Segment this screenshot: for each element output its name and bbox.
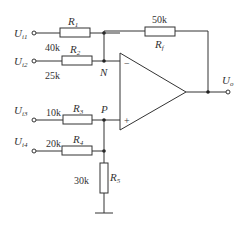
opamp-minus: − — [124, 58, 130, 69]
label-r3: R3 — [72, 102, 84, 116]
label-ui2: Ui2 — [14, 55, 28, 69]
terminal-ui4 — [32, 149, 36, 153]
opamp — [120, 53, 186, 130]
label-node-p: P — [100, 103, 108, 115]
value-r5: 30k — [74, 175, 89, 186]
resistor-r2 — [62, 56, 92, 65]
label-rf: Rf — [154, 38, 165, 52]
junction-out — [206, 90, 210, 94]
opamp-plus: + — [124, 115, 130, 126]
terminal-uo — [226, 90, 230, 94]
terminal-ui3 — [32, 118, 36, 122]
value-r2: 25k — [45, 70, 60, 81]
circuit-diagram: Ui1 R1 40k Ui2 R2 25k N 50k Rf − + Uo Ui… — [0, 0, 244, 226]
label-r5: R5 — [109, 171, 121, 185]
value-r3: 10k — [46, 107, 61, 118]
label-ui1: Ui1 — [14, 27, 27, 41]
resistor-r3 — [63, 115, 92, 124]
terminal-ui1 — [32, 31, 36, 35]
label-r2: R2 — [69, 43, 81, 57]
label-ui4: Ui4 — [14, 135, 28, 149]
value-r1: 40k — [45, 42, 60, 53]
terminal-ui2 — [32, 59, 36, 63]
resistor-r1 — [60, 28, 90, 37]
input-ui1: Ui1 — [14, 27, 60, 41]
label-r4: R4 — [72, 133, 84, 147]
node-n — [102, 59, 106, 63]
resistor-r4 — [62, 146, 92, 155]
resistor-rf — [145, 27, 175, 36]
resistor-r5 — [100, 163, 108, 193]
label-node-n: N — [99, 66, 108, 78]
value-rf: 50k — [152, 14, 167, 25]
value-r4: 20k — [46, 138, 61, 149]
label-uo: Uo — [222, 74, 234, 88]
label-ui3: Ui3 — [14, 104, 28, 118]
label-r1: R1 — [67, 15, 78, 29]
